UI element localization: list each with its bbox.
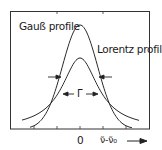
x-tick-label-zero: 0 (77, 135, 83, 146)
x-axis-label: ν̃-ν̃₀ (100, 135, 117, 145)
x-axis-arrow (127, 139, 147, 144)
gauss-profile-label: Gauß profile (19, 21, 80, 32)
gauss-curve (30, 25, 132, 128)
gauss-width-arrows (48, 75, 112, 79)
lorentz-profile-label: Lorentz profile (97, 44, 162, 55)
gamma-label: Γ (77, 89, 82, 99)
